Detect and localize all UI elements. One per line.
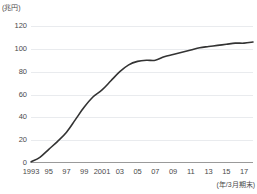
y-axis-tick-label: 0 xyxy=(23,159,27,167)
x-axis-tick-label: 07 xyxy=(151,167,159,176)
x-axis-tick-label: 17 xyxy=(240,167,248,176)
y-axis-tick-label: 40 xyxy=(19,113,27,121)
y-axis-tick-label: 100 xyxy=(14,45,27,53)
x-axis-tick-label: 1993 xyxy=(23,167,40,176)
plot-area: 120100806040200 199395979920010305070911… xyxy=(31,26,253,163)
y-axis-tick-label: 80 xyxy=(19,68,27,76)
x-axis-tick-label: 13 xyxy=(204,167,212,176)
y-axis-tick-label: 120 xyxy=(14,22,27,30)
y-axis-unit-label: (兆円) xyxy=(2,3,21,12)
x-axis-tick-label: 11 xyxy=(187,167,195,176)
x-axis-tick-label: 03 xyxy=(116,167,124,176)
y-axis-tick-label: 60 xyxy=(19,91,27,99)
x-axis-tick-label: 99 xyxy=(80,167,88,176)
x-axis-tick-label: 2001 xyxy=(94,167,111,176)
x-axis-tick-label: 15 xyxy=(222,167,230,176)
x-axis-tick-label: 09 xyxy=(169,167,177,176)
line-series-plot xyxy=(31,26,253,163)
chart-container: (兆円) 120100806040200 1993959799200103050… xyxy=(0,0,257,194)
x-axis-tick-label: 95 xyxy=(45,167,53,176)
x-axis-note-label: (年/3月期末) xyxy=(217,180,256,189)
x-axis-tick-label: 05 xyxy=(133,167,141,176)
series-line xyxy=(31,42,253,162)
x-axis-tick-label: 97 xyxy=(62,167,70,176)
y-axis-tick-label: 20 xyxy=(19,136,27,144)
